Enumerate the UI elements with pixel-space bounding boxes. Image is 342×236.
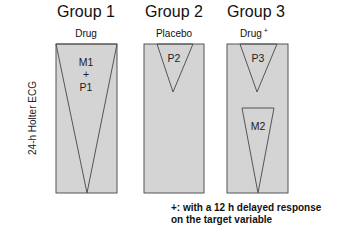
label-p3: P3 — [252, 52, 265, 64]
label-m1: M1 — [79, 56, 94, 68]
footnote-line-1: +: with a 12 h delayed response — [171, 202, 322, 213]
group-3: Group 3 Drug+ P3 M2 — [227, 3, 288, 193]
group-1-title: Group 1 — [57, 3, 115, 20]
group-1-treatment: Drug — [75, 28, 97, 39]
group-3-treatment: Drug+ — [240, 27, 268, 39]
group-2-box — [144, 44, 204, 193]
y-axis-label: 24-h Holter ECG — [27, 81, 38, 155]
group-2-treatment: Placebo — [156, 28, 193, 39]
study-design-diagram: 24-h Holter ECG Group 1 Drug M1 + P1 Gro… — [0, 0, 342, 236]
group-3-box — [227, 44, 288, 193]
group-3-title: Group 3 — [227, 3, 285, 20]
footnote-line-2: on the target variable — [171, 214, 273, 225]
group-2: Group 2 Placebo P2 — [144, 3, 204, 193]
label-p2: P2 — [168, 52, 181, 64]
label-plus: + — [83, 68, 89, 80]
group-2-title: Group 2 — [145, 3, 203, 20]
group-1: Group 1 Drug M1 + P1 — [56, 3, 117, 193]
label-p1: P1 — [80, 81, 93, 93]
label-m2: M2 — [251, 120, 266, 132]
